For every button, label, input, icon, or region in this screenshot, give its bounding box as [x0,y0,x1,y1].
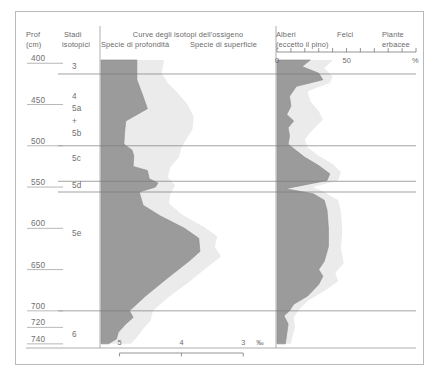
stage-header-line1: Stadi [64,30,82,39]
stage-label-5b: 5b [72,129,81,138]
depth-label-700: 700 [31,302,45,311]
pollen-axis-unit: % [412,56,419,65]
depth-label-740: 740 [31,335,45,344]
stage-label-5c: 5c [72,154,81,163]
depth-label-550: 550 [31,178,45,187]
isotope-axis-unit: ‰ [256,338,264,347]
depth-label-650: 650 [31,261,45,270]
stage-label-5d: 5d [72,181,81,190]
depth-header-line2: (cm) [26,40,41,49]
stage-label-4: 4 [72,92,77,101]
figure-root: Prof (cm) Stadi isotopici Curve degli is… [0,0,439,390]
pollen-header-herbs-line2: erbacee [382,40,410,49]
pollen-header-herbs-line1: Piante [382,30,404,39]
depth-label-450: 450 [31,96,45,105]
stage-label-3: 3 [72,62,77,71]
stage-label-6: 6 [72,330,77,339]
depth-label-600: 600 [31,219,45,228]
stratigraphic-chart [0,0,439,390]
depth-label-720: 720 [31,318,45,327]
stage-header-line2: isotopici [62,40,90,49]
pollen-tick-0: 0 [275,56,279,65]
stage-label-5e: 5e [72,229,81,238]
isotope-tick-5: 5 [118,338,122,347]
isotope-tick-4: 4 [179,338,183,347]
depth-label-500: 500 [31,137,45,146]
isotope-sub-deep: Specie di profondità [101,40,169,49]
pollen-header-trees-line1: Alberi [276,30,296,39]
isotope-sub-surface: Specie di superficie [190,40,257,49]
isotope-tick-3: 3 [241,338,245,347]
isotope-title: Curve degli isotopi dell'ossigeno [133,30,243,39]
depth-header-line1: Prof [26,30,40,39]
pollen-tick-50: 50 [343,56,352,65]
stage-label-plus: + [72,117,77,126]
stage-label-5a: 5a [72,104,81,113]
pollen-header-trees-line2: (eccetto il pino) [276,40,329,49]
depth-label-400: 400 [31,54,45,63]
pollen-header-ferns: Felci [337,30,353,39]
